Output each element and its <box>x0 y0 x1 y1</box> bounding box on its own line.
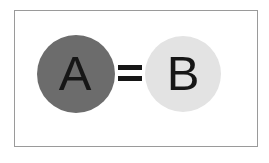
equation-row: A B <box>37 33 243 115</box>
equals-bar-top <box>118 65 142 70</box>
node-a-label: A <box>59 49 92 98</box>
node-a-circle: A <box>37 35 115 113</box>
figure-root: A B <box>0 0 269 163</box>
equals-bar-bottom <box>118 76 142 81</box>
node-b-circle: B <box>145 36 221 112</box>
equals-sign-icon <box>118 64 142 84</box>
node-b-label: B <box>167 49 200 98</box>
figure-panel: A B <box>14 10 258 147</box>
